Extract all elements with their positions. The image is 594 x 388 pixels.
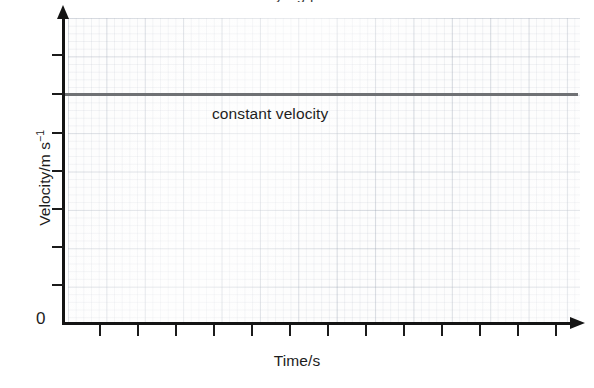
cropped-caption-sliver: y t g p [0,0,594,2]
y-axis-tick [52,93,64,95]
y-axis-tick [52,54,64,56]
origin-label: 0 [36,310,45,327]
x-axis-tick [517,325,519,336]
x-axis-tick [479,325,481,336]
x-axis-label: Time/s [0,352,594,370]
x-axis-tick [441,325,443,336]
x-axis-tick [289,325,291,336]
x-axis-tick [365,325,367,336]
x-axis-tick [213,325,215,336]
series-line-constant-velocity [64,93,578,96]
annotation-constant-velocity: constant velocity [212,105,328,123]
x-axis-tick [99,325,101,336]
x-axis-tick [555,325,557,336]
x-axis-tick [137,325,139,336]
y-axis-tick [52,208,64,210]
x-axis-tick [327,325,329,336]
y-axis-tick [52,170,64,172]
x-axis-tick [403,325,405,336]
y-axis-label-exponent: −1 [34,130,46,142]
x-axis-tick [251,325,253,336]
y-axis-tick [52,284,64,286]
x-axis-tick [175,325,177,336]
plot-area-grid [68,18,580,322]
y-axis-label-text: Velocity/m s [36,142,53,226]
x-axis-arrow-icon [570,317,585,329]
y-axis-tick [52,132,64,134]
y-axis-tick [52,246,64,248]
y-axis-label: Velocity/m s−1 [34,93,53,263]
y-axis-arrow-icon [57,5,69,19]
velocity-time-graph-figure: y t g p constant velocity 0 Velocity/m s… [0,0,594,388]
